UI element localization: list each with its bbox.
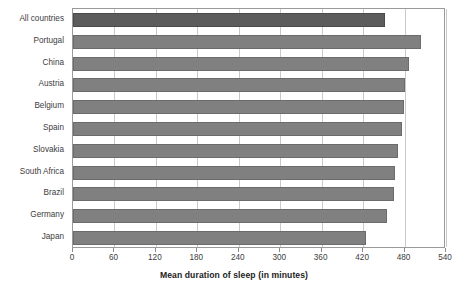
tick-mark-240 [238, 248, 239, 252]
bars-container [73, 9, 444, 247]
bar-all-countries[interactable] [73, 13, 385, 27]
tick-mark-120 [155, 248, 156, 252]
tick-mark-420 [362, 248, 363, 252]
tick-label-480: 480 [397, 253, 411, 262]
tick-label-420: 420 [355, 253, 369, 262]
bar-row [73, 96, 446, 118]
tick-label-180: 180 [189, 253, 203, 262]
tick-mark-360 [321, 248, 322, 252]
tick-label-300: 300 [272, 253, 286, 262]
bar-brazil[interactable] [73, 187, 394, 201]
bar-slovakia[interactable] [73, 144, 398, 158]
bar-row [73, 227, 446, 249]
bar-spain[interactable] [73, 122, 402, 136]
x-axis-title: Mean duration of sleep (in minutes) [0, 270, 468, 280]
bar-row [73, 74, 446, 96]
gridline-540 [446, 9, 447, 247]
category-label-slovakia: Slovakia [33, 145, 64, 155]
plot-area [72, 8, 445, 248]
bar-row [73, 31, 446, 53]
bar-row [73, 118, 446, 140]
bar-portugal[interactable] [73, 35, 421, 49]
category-label-austria: Austria [39, 79, 64, 89]
bar-row [73, 162, 446, 184]
bar-germany[interactable] [73, 209, 387, 223]
tick-label-540: 540 [438, 253, 452, 262]
bar-row [73, 9, 446, 31]
bar-row [73, 205, 446, 227]
category-label-germany: Germany [30, 210, 64, 220]
bar-chart: All countriesPortugalChinaAustriaBelgium… [0, 0, 468, 298]
category-label-brazil: Brazil [44, 188, 64, 198]
tick-label-0: 0 [70, 253, 75, 262]
bar-row [73, 184, 446, 206]
category-label-portugal: Portugal [34, 36, 65, 46]
tick-mark-0 [72, 248, 73, 252]
bar-south-africa[interactable] [73, 166, 395, 180]
bar-austria[interactable] [73, 78, 405, 92]
category-label-south-africa: South Africa [20, 167, 64, 177]
tick-label-120: 120 [148, 253, 162, 262]
category-axis-labels: All countriesPortugalChinaAustriaBelgium… [0, 8, 68, 248]
bar-row [73, 53, 446, 75]
tick-label-240: 240 [231, 253, 245, 262]
tick-mark-300 [279, 248, 280, 252]
category-label-all-countries: All countries [19, 14, 64, 24]
bar-japan[interactable] [73, 231, 366, 245]
category-label-belgium: Belgium [34, 101, 64, 111]
tick-mark-180 [196, 248, 197, 252]
tick-mark-60 [113, 248, 114, 252]
category-label-spain: Spain [43, 123, 64, 133]
bar-row [73, 140, 446, 162]
tick-mark-540 [445, 248, 446, 252]
bar-china[interactable] [73, 57, 409, 71]
category-label-japan: Japan [42, 232, 64, 242]
category-label-china: China [43, 58, 64, 68]
tick-label-360: 360 [314, 253, 328, 262]
bar-belgium[interactable] [73, 100, 404, 114]
value-axis-ticks: 060120180240300360420480540 [0, 248, 468, 266]
tick-mark-480 [404, 248, 405, 252]
tick-label-60: 60 [109, 253, 118, 262]
